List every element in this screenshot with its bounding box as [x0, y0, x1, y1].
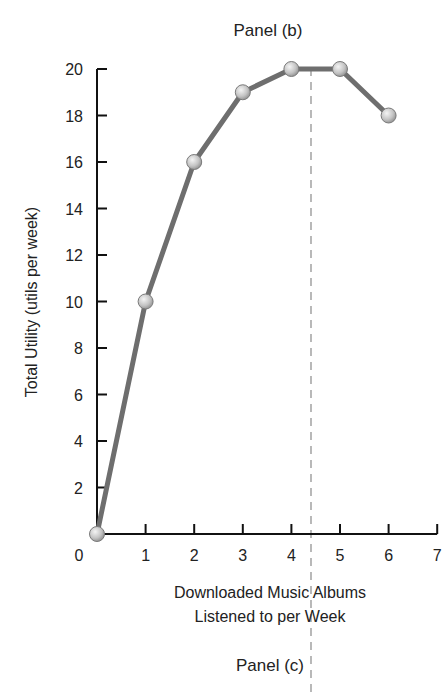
- y-tick-label: 20: [65, 61, 83, 78]
- total-utility-series: [90, 62, 397, 542]
- x-axis-label-line1: Downloaded Music Albums: [174, 584, 366, 601]
- data-point-marker: [187, 155, 202, 170]
- x-tick-label: 7: [433, 547, 442, 564]
- x-tick-label: 2: [190, 547, 199, 564]
- y-tick-label: 12: [65, 247, 83, 264]
- data-point-marker: [90, 527, 105, 542]
- y-tick-label: 8: [74, 340, 83, 357]
- x-tick-label: 4: [287, 547, 296, 564]
- y-axis-label: Total Utility (utils per week): [23, 207, 40, 397]
- data-point-marker: [138, 294, 153, 309]
- panel-c-title: Panel (c): [236, 656, 304, 675]
- y-tick-label: 4: [74, 433, 83, 450]
- x-tick-label: 0: [75, 547, 84, 564]
- y-tick-label: 6: [74, 387, 83, 404]
- x-axis: 01234567: [75, 524, 442, 564]
- data-point-marker: [381, 108, 396, 123]
- data-point-marker: [235, 85, 250, 100]
- chart-title: Panel (b): [234, 21, 303, 40]
- x-tick-label: 1: [141, 547, 150, 564]
- y-tick-label: 18: [65, 108, 83, 125]
- y-tick-label: 16: [65, 154, 83, 171]
- x-axis-label-line2: Listened to per Week: [195, 608, 347, 625]
- y-tick-label: 14: [65, 201, 83, 218]
- x-tick-label: 3: [238, 547, 247, 564]
- x-tick-label: 6: [384, 547, 393, 564]
- x-tick-label: 5: [336, 547, 345, 564]
- y-tick-label: 2: [74, 480, 83, 497]
- data-point-marker: [284, 62, 299, 77]
- data-point-marker: [333, 62, 348, 77]
- total-utility-chart: Panel (b) 2468101214161820 01234567 Tota…: [0, 0, 446, 698]
- y-axis: 2468101214161820: [65, 61, 107, 534]
- y-tick-label: 10: [65, 294, 83, 311]
